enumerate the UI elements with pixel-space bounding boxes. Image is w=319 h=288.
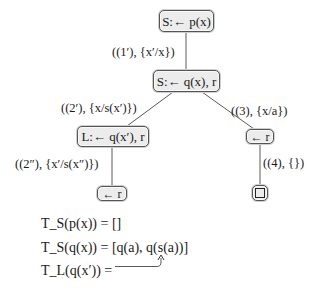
equation-lhs: T_S(p(x)) = — [41, 216, 108, 231]
edge-label-4: ((2″), {x′/s(x″)}) — [15, 158, 98, 171]
node-label: ← r — [103, 188, 122, 200]
equation-ts-q: T_S(q(x)) = [q(a), q(s(a))] — [41, 241, 188, 255]
equation-rhs: [] — [112, 216, 121, 231]
equation-tl-q: T_L(q(x′)) = — [41, 264, 112, 278]
node-label: L:← q(x′), r — [81, 130, 144, 143]
equation-ts-p: T_S(p(x)) = [] — [41, 217, 121, 231]
node-empty-clause — [252, 185, 268, 201]
equation-lhs: T_S(q(x)) = — [41, 240, 108, 255]
empty-clause-icon — [255, 188, 265, 198]
node-label: ← r — [251, 131, 270, 143]
reference-arrow — [115, 258, 161, 267]
node-root-goal: S:← p(x) — [159, 10, 214, 32]
equation-rhs: [q(a), q(s(a))] — [112, 240, 188, 255]
edge-label-1: ((1′), {x′/x}) — [112, 46, 175, 59]
node-left-leaf: ← r — [97, 186, 127, 201]
node-label: S:← p(x) — [162, 15, 211, 28]
node-lemma-goal: L:← q(x′), r — [77, 126, 149, 147]
edge-label-5: ((4), {}) — [263, 157, 304, 170]
node-label: S:← q(x), r — [157, 75, 217, 88]
edge-label-2: ((2′), {x/s(x′)}) — [61, 102, 137, 115]
node-sub-goal: S:← q(x), r — [153, 70, 220, 92]
equation-lhs: T_L(q(x′)) = — [41, 263, 112, 278]
edge-label-3: ((3), {x/a}) — [231, 105, 287, 118]
node-right-goal: ← r — [246, 129, 274, 144]
